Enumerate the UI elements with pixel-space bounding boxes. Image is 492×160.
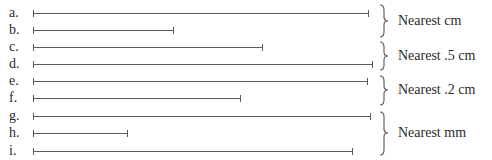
row-label-b: b. bbox=[9, 23, 20, 37]
segment-i bbox=[33, 151, 353, 152]
row-label-c: c. bbox=[9, 40, 19, 54]
row-label-i: i. bbox=[9, 144, 16, 158]
segment-h bbox=[33, 133, 128, 134]
row-label-g: g. bbox=[9, 109, 20, 123]
row-label-h: h. bbox=[9, 126, 20, 140]
group-label-half-cm: Nearest .5 cm bbox=[398, 49, 475, 63]
group-label-cm: Nearest cm bbox=[398, 14, 461, 28]
segment-c bbox=[33, 47, 263, 48]
segment-f bbox=[33, 98, 241, 99]
segment-a bbox=[33, 13, 369, 14]
row-label-a: a. bbox=[9, 6, 19, 20]
segment-d bbox=[33, 64, 373, 65]
brace-icon bbox=[378, 0, 392, 160]
group-label-fifth-cm: Nearest .2 cm bbox=[398, 83, 475, 97]
row-label-d: d. bbox=[9, 57, 20, 71]
row-label-f: f. bbox=[9, 91, 17, 105]
segment-g bbox=[33, 116, 371, 117]
segment-e bbox=[33, 81, 368, 82]
row-label-e: e. bbox=[9, 74, 19, 88]
segment-b bbox=[33, 30, 174, 31]
group-label-mm: Nearest mm bbox=[398, 126, 466, 140]
